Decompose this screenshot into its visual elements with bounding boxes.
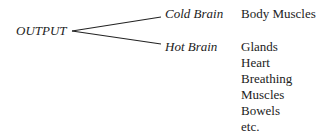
- branch-hot-brain: Hot Brain: [165, 39, 217, 55]
- hot-item: Glands: [241, 39, 278, 55]
- hot-item: Heart: [241, 55, 270, 71]
- branch-cold-brain: Cold Brain: [165, 6, 223, 22]
- diagram: OUTPUT Cold Brain Body Muscles Hot Brain…: [0, 0, 330, 137]
- root-label: OUTPUT: [16, 23, 67, 39]
- hot-item: Bowels: [241, 103, 280, 119]
- hot-item: Breathing: [241, 71, 292, 87]
- cold-item: Body Muscles: [241, 6, 316, 22]
- hot-item: etc.: [241, 119, 259, 135]
- hot-item: Muscles: [241, 87, 284, 103]
